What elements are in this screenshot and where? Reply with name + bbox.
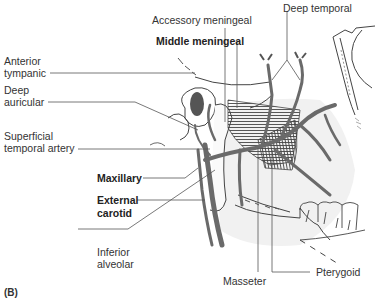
label-external-carotid-line2: carotid bbox=[97, 207, 132, 219]
label-anterior-tympanic-line2: tympanic bbox=[4, 67, 46, 79]
label-deep-temporal: Deep temporal bbox=[283, 2, 352, 14]
label-inferior-alveolar-line2: alveolar bbox=[97, 258, 134, 270]
label-deep-auricular-line1: Deep bbox=[4, 84, 29, 96]
label-anterior-tympanic-line1: Anterior bbox=[4, 55, 41, 67]
zygomatic-bone bbox=[333, 26, 375, 37]
label-superficial-temporal-line2: temporal artery bbox=[4, 142, 75, 154]
label-accessory-meningeal: Accessory meningeal bbox=[152, 14, 252, 26]
label-inferior-alveolar-line1: Inferior bbox=[97, 246, 130, 258]
label-masseter: Masseter bbox=[223, 275, 266, 287]
label-superficial-temporal-line1: Superficial bbox=[4, 130, 53, 142]
panel-label: (B) bbox=[4, 287, 18, 298]
label-deep-auricular-line2: auricular bbox=[4, 96, 44, 108]
label-external-carotid-line1: External bbox=[97, 194, 138, 206]
label-pterygoid: Pterygoid bbox=[316, 266, 360, 278]
label-maxillary: Maxillary bbox=[97, 172, 142, 184]
anatomy-figure: Accessory meningeal Deep temporal Middle… bbox=[0, 0, 375, 302]
label-middle-meningeal: Middle meningeal bbox=[156, 35, 244, 47]
